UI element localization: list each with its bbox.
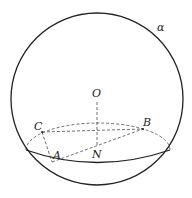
label-O: O <box>92 88 101 99</box>
label-N: N <box>92 149 102 160</box>
label-C: C <box>34 121 42 132</box>
segment-CB <box>42 129 143 132</box>
label-A: A <box>53 150 61 161</box>
sphere-diagram: α O C B A N <box>0 0 192 198</box>
label-alpha: α <box>157 22 164 33</box>
segment-CA <box>42 132 52 162</box>
label-B: B <box>143 117 151 128</box>
